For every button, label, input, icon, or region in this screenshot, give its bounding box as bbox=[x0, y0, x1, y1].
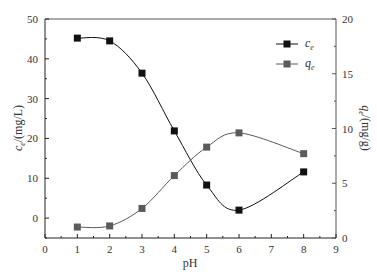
y-tick-label: 10 bbox=[27, 172, 39, 184]
y2-tick-label: 15 bbox=[342, 68, 354, 80]
x-tick-label: 7 bbox=[269, 243, 275, 255]
dual-axis-line-chart: 01234567890102030405005101520 ceqe pH ce… bbox=[0, 0, 377, 278]
x-tick-label: 3 bbox=[139, 243, 145, 255]
x-tick-label: 6 bbox=[236, 243, 242, 255]
legend-label-q_e: qe bbox=[305, 56, 315, 72]
data-point-c_e bbox=[106, 37, 113, 44]
y2-tick-label: 10 bbox=[342, 123, 354, 135]
legend-marker-q_e bbox=[284, 61, 291, 68]
data-point-c_e bbox=[171, 127, 178, 134]
y2-tick-label: 0 bbox=[342, 232, 348, 244]
svg-text:ce/(mg/L): ce/(mg/L) bbox=[11, 105, 27, 151]
data-point-q_e bbox=[74, 224, 81, 231]
x-tick-label: 5 bbox=[204, 243, 210, 255]
legend-label-c_e: ce bbox=[305, 36, 314, 52]
series-line-q_e bbox=[77, 133, 303, 228]
legend-marker-c_e bbox=[284, 41, 291, 48]
data-point-c_e bbox=[236, 207, 243, 214]
y-tick-label: 30 bbox=[27, 93, 39, 105]
data-point-q_e bbox=[236, 129, 243, 136]
legend: ceqe bbox=[276, 36, 315, 72]
y-axis-label: ce/(mg/L) bbox=[11, 105, 27, 151]
series-layer bbox=[74, 35, 307, 231]
y-tick-label: 50 bbox=[27, 13, 39, 25]
data-point-c_e bbox=[300, 168, 307, 175]
data-point-q_e bbox=[171, 172, 178, 179]
y-tick-label: 20 bbox=[27, 132, 39, 144]
y-tick-label: 40 bbox=[27, 53, 39, 65]
data-point-c_e bbox=[74, 35, 81, 42]
x-tick-label: 2 bbox=[107, 243, 113, 255]
x-tick-label: 1 bbox=[75, 243, 81, 255]
x-tick-label: 0 bbox=[42, 243, 48, 255]
y2-axis-label: qe/(mg/g) bbox=[357, 105, 373, 151]
x-tick-label: 4 bbox=[172, 243, 178, 255]
y2-tick-label: 5 bbox=[342, 177, 348, 189]
x-tick-label: 9 bbox=[333, 243, 339, 255]
data-point-c_e bbox=[139, 70, 146, 77]
data-point-q_e bbox=[203, 144, 210, 151]
x-axis-label: pH bbox=[183, 256, 198, 270]
y2-tick-label: 20 bbox=[342, 13, 354, 25]
data-point-c_e bbox=[203, 182, 210, 189]
data-point-q_e bbox=[139, 205, 146, 212]
svg-text:qe/(mg/g): qe/(mg/g) bbox=[357, 105, 373, 151]
data-point-q_e bbox=[300, 150, 307, 157]
series-line-c_e bbox=[77, 37, 303, 210]
y-tick-label: 0 bbox=[33, 212, 39, 224]
x-tick-label: 8 bbox=[301, 243, 307, 255]
data-point-q_e bbox=[106, 222, 113, 229]
